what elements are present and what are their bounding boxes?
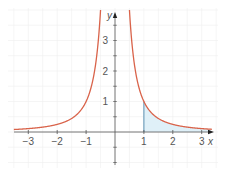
axes (14, 12, 214, 165)
y-tick-label: 3 (102, 35, 108, 46)
x-tick-label: 3 (199, 136, 205, 147)
y-axis-arrow-icon (113, 12, 117, 18)
x-tick-label: −2 (51, 136, 63, 147)
y-tick-label: 1 (102, 96, 108, 107)
x-tick-label: −3 (23, 136, 35, 147)
x-axis-arrow-icon (208, 130, 214, 134)
x-tick-label: 2 (170, 136, 176, 147)
grid-lines (8, 8, 218, 168)
y-tick-label: 2 (102, 66, 108, 77)
curve-right-branch (129, 10, 211, 129)
function-plot: −3−2−1123123 x y (0, 0, 225, 175)
x-tick-label: −1 (80, 136, 92, 147)
y-axis-label: y (106, 10, 113, 21)
x-tick-label: 1 (141, 136, 147, 147)
x-axis-label: x (207, 136, 214, 147)
